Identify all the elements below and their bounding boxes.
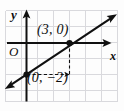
x-axis-label: x bbox=[110, 50, 116, 62]
plotted-line-arrowhead-lower-left bbox=[5, 80, 15, 89]
origin-label: O bbox=[9, 45, 18, 58]
y-axis-label: y bbox=[11, 8, 17, 21]
coordinate-graph-figure: y x O (3, 0) (0, −2) bbox=[0, 0, 124, 111]
point-label-0-neg2: (0, −2) bbox=[27, 71, 68, 85]
coordinate-plane bbox=[0, 0, 124, 111]
point-marker-3-0 bbox=[66, 40, 72, 46]
plotted-line-arrowhead-upper-right bbox=[107, 14, 117, 23]
point-label-3-0: (3, 0) bbox=[37, 23, 69, 37]
